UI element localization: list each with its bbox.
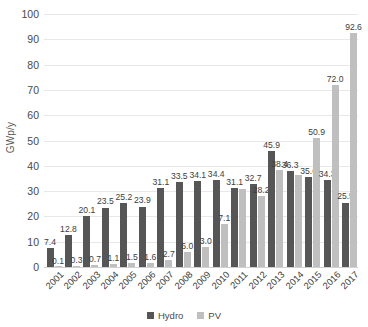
y-axis-tick-label: 10 xyxy=(27,236,39,248)
bar-pv-2007[interactable] xyxy=(165,260,172,267)
bar-value-label: 7.1 xyxy=(218,214,230,223)
bar-value-label: 33.5 xyxy=(171,172,188,181)
legend-swatch-pv xyxy=(197,312,204,319)
bar-value-label: 1.5 xyxy=(126,253,138,262)
bar-pv-2006[interactable] xyxy=(147,263,154,267)
bar-value-label: 1.6 xyxy=(144,253,156,262)
y-axis-tick-label: 50 xyxy=(27,135,39,147)
bar-hydro-2011[interactable] xyxy=(231,188,238,267)
x-axis-ticks: 2001200220032004200520062007200820092010… xyxy=(44,268,358,308)
bar-group: 35.650.9 xyxy=(304,14,322,267)
bar-group: 25.592.6 xyxy=(341,14,359,267)
bar-value-label: 92.6 xyxy=(345,23,362,32)
y-axis-title: GWp/y xyxy=(5,106,16,170)
bar-hydro-2017[interactable] xyxy=(342,203,349,268)
y-axis-tick-label: 100 xyxy=(21,8,39,20)
bar-chart: GWp/y 0102030405060708090100 7.40.112.80… xyxy=(0,0,368,327)
plot-area: 0102030405060708090100 7.40.112.80.320.1… xyxy=(44,14,358,267)
bar-group: 34.47.1 xyxy=(212,14,230,267)
bar-group: 36.3 xyxy=(286,14,304,267)
bar-pv-2011[interactable] xyxy=(239,189,246,267)
bar-value-label: 25.2 xyxy=(116,193,133,202)
bar-pv-2016[interactable] xyxy=(332,85,339,267)
bar-value-label: 0.3 xyxy=(70,256,82,265)
bar-value-label: 0.1 xyxy=(52,257,64,266)
bar-hydro-2015[interactable] xyxy=(305,177,312,267)
bar-hydro-2008[interactable] xyxy=(176,182,183,267)
bar-pv-2012[interactable] xyxy=(258,196,265,267)
legend-label: PV xyxy=(208,310,221,321)
bar-hydro-2012[interactable] xyxy=(250,184,257,267)
bar-group: 23.51.1 xyxy=(101,14,119,267)
y-axis-tick-label: 40 xyxy=(27,160,39,172)
bar-value-label: 36.3 xyxy=(282,161,299,170)
bar-group: 34.372.0 xyxy=(323,14,341,267)
bar-value-label: 23.5 xyxy=(97,197,114,206)
y-axis-tick-label: 20 xyxy=(27,210,39,222)
chart-legend: HydroPV xyxy=(0,310,368,321)
bar-value-label: 23.9 xyxy=(134,196,151,205)
bar-value-label: 6.0 xyxy=(181,242,193,251)
bar-value-label: 2.7 xyxy=(163,250,175,259)
bar-pv-2013[interactable] xyxy=(276,170,283,267)
bar-hydro-2009[interactable] xyxy=(194,181,201,267)
bar-pv-2004[interactable] xyxy=(110,264,117,267)
y-axis-tick-label: 30 xyxy=(27,185,39,197)
bar-value-label: 0.7 xyxy=(89,255,101,264)
bar-group: 25.21.5 xyxy=(119,14,137,267)
bar-pv-2005[interactable] xyxy=(128,263,135,267)
bar-group: 31.1 xyxy=(230,14,248,267)
bar-hydro-2010[interactable] xyxy=(213,180,220,267)
bar-group: 23.91.6 xyxy=(138,14,156,267)
bar-value-label: 31.1 xyxy=(226,178,243,187)
bar-pv-2015[interactable] xyxy=(313,138,320,267)
bar-pv-2001[interactable] xyxy=(55,266,62,267)
bar-group: 31.12.7 xyxy=(156,14,174,267)
bar-group: 12.80.3 xyxy=(64,14,82,267)
legend-label: Hydro xyxy=(158,310,183,321)
bar-pv-2003[interactable] xyxy=(91,265,98,267)
bar-group: 34.13.0 xyxy=(193,14,211,267)
y-axis-tick-label: 70 xyxy=(27,84,39,96)
y-axis-tick-label: 80 xyxy=(27,59,39,71)
bar-pv-2010[interactable] xyxy=(221,224,228,267)
legend-swatch-hydro xyxy=(147,312,154,319)
bar-pv-2002[interactable] xyxy=(73,266,80,267)
bar-hydro-2016[interactable] xyxy=(324,180,331,267)
bar-group: 20.10.7 xyxy=(82,14,100,267)
y-axis-tick-label: 0 xyxy=(33,261,39,273)
bar-value-label: 3.0 xyxy=(200,237,212,246)
bar-value-label: 31.1 xyxy=(152,178,169,187)
bar-value-label: 12.8 xyxy=(60,225,77,234)
bar-groups: 7.40.112.80.320.10.723.51.125.21.523.91.… xyxy=(44,14,358,267)
bar-value-label: 32.7 xyxy=(245,174,262,183)
bar-group: 45.938.4 xyxy=(267,14,285,267)
bar-pv-2014[interactable] xyxy=(295,175,302,267)
bar-value-label: 20.1 xyxy=(79,206,96,215)
y-axis-tick-label: 60 xyxy=(27,109,39,121)
bar-pv-2009[interactable] xyxy=(202,247,209,267)
bar-value-label: 1.1 xyxy=(107,254,119,263)
legend-item-pv[interactable]: PV xyxy=(197,310,221,321)
bar-group: 33.56.0 xyxy=(175,14,193,267)
bar-value-label: 7.4 xyxy=(44,238,56,247)
bar-value-label: 34.1 xyxy=(189,171,206,180)
bar-pv-2017[interactable] xyxy=(350,33,357,267)
bar-pv-2008[interactable] xyxy=(184,252,191,267)
legend-item-hydro[interactable]: Hydro xyxy=(147,310,183,321)
bar-value-label: 45.9 xyxy=(263,141,280,150)
bar-value-label: 34.4 xyxy=(208,170,225,179)
y-axis-tick-label: 90 xyxy=(27,33,39,45)
bar-hydro-2014[interactable] xyxy=(287,171,294,267)
